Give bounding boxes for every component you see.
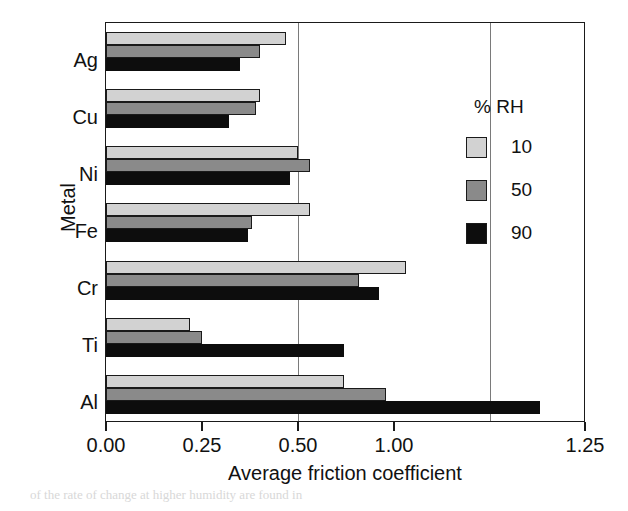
y-tick-label-al: Al <box>28 392 98 412</box>
bar-cr-rh50 <box>106 274 359 287</box>
bar-cu-rh10 <box>106 89 260 102</box>
bar-ag-rh90 <box>106 58 240 71</box>
bar-fe-rh90 <box>106 229 248 242</box>
legend-item-50: 50 <box>466 179 576 201</box>
legend-title: % RH <box>466 96 576 118</box>
bar-cr-rh10 <box>106 261 406 274</box>
x-tick-0 <box>105 422 107 431</box>
y-tick-label-ag: Ag <box>28 50 98 70</box>
bar-group-ag <box>106 23 584 80</box>
x-tick-label-1: 0.25 <box>157 434 247 457</box>
bar-al-rh50 <box>106 388 386 401</box>
y-tick-label-ni: Ni <box>28 164 98 184</box>
bar-group-ti <box>106 309 584 366</box>
x-axis-title: Average friction coefficient <box>105 462 585 485</box>
x-tick-label-3: 1.00 <box>349 434 439 457</box>
x-tick-1 <box>201 422 203 431</box>
y-tick-label-fe: Fe <box>28 221 98 241</box>
bar-al-rh10 <box>106 375 344 388</box>
bar-ag-rh10 <box>106 32 286 45</box>
bar-ag-rh50 <box>106 45 260 58</box>
x-tick-label-0: 0.00 <box>61 434 151 457</box>
legend-swatch-10 <box>466 137 487 158</box>
legend-swatch-90 <box>466 223 487 244</box>
legend-label-10: 10 <box>511 136 532 158</box>
x-tick-2 <box>297 422 299 431</box>
figure: of the rate of change at higher humidity… <box>0 0 628 511</box>
x-tick-3 <box>393 422 395 431</box>
bar-ni-rh10 <box>106 146 298 159</box>
legend-label-50: 50 <box>511 179 532 201</box>
legend-item-10: 10 <box>466 136 576 158</box>
bar-fe-rh50 <box>106 216 252 229</box>
bar-al-rh90 <box>106 401 540 414</box>
bar-ti-rh50 <box>106 331 202 344</box>
legend-swatch-50 <box>466 180 487 201</box>
bar-cu-rh50 <box>106 102 256 115</box>
legend-item-90: 90 <box>466 222 576 244</box>
y-tick-label-cu: Cu <box>28 107 98 127</box>
bar-ti-rh90 <box>106 344 344 357</box>
legend: % RH 10 50 90 <box>466 96 576 265</box>
bar-cu-rh90 <box>106 115 229 128</box>
bar-fe-rh10 <box>106 203 310 216</box>
bar-ti-rh10 <box>106 318 190 331</box>
legend-label-90: 90 <box>511 222 532 244</box>
bar-ni-rh90 <box>106 172 290 185</box>
x-tick-label-4: 1.25 <box>540 434 628 457</box>
bar-ni-rh50 <box>106 159 310 172</box>
bar-group-al <box>106 366 584 423</box>
x-tick-label-2: 0.50 <box>253 434 343 457</box>
y-tick-label-cr: Cr <box>28 278 98 298</box>
y-tick-label-ti: Ti <box>28 335 98 355</box>
bar-cr-rh90 <box>106 287 379 300</box>
x-tick-4 <box>584 422 586 431</box>
